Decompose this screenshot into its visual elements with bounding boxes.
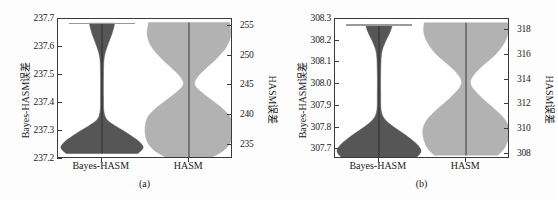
b-right-tickmark-1 (504, 128, 509, 129)
panel-a-left-axis-title: Bayes-HASM误差 (17, 40, 32, 160)
b-right-tickmark-4 (504, 54, 509, 55)
a-left-tick-2: 237.4 (34, 97, 54, 107)
whisker-top (69, 23, 135, 24)
b-left-tickmark-6 (334, 18, 339, 19)
panel-a-axes (57, 18, 232, 158)
b-left-tick-1: 307.8 (311, 122, 331, 132)
b-right-tick-5: 318 (517, 24, 531, 34)
b-left-tick-2: 307.9 (311, 100, 331, 110)
a-left-tick-4: 237.6 (34, 41, 54, 51)
whisker-top (346, 24, 412, 25)
panel-b-xtick-1 (465, 158, 466, 162)
b-right-tick-2: 312 (517, 98, 531, 108)
a-right-tickmark-4 (227, 25, 232, 26)
panel-b-caption: (b) (334, 178, 509, 189)
panel-a: Bayes-HASM误差 HASM误差 237.2237.3237.4237.5… (0, 0, 277, 200)
panel-a-caption: (a) (57, 178, 232, 189)
b-right-tick-1: 310 (517, 123, 531, 133)
b-right-tickmark-5 (504, 29, 509, 30)
panel-b: Bayes-HASM误差 HASM误差 307.7307.8307.9308.0… (277, 0, 554, 200)
a-right-tick-3: 250 (240, 50, 254, 60)
a-left-tickmark-4 (57, 46, 62, 47)
a-left-tick-1: 237.3 (34, 125, 54, 135)
b-right-tick-3: 314 (517, 74, 531, 84)
b-left-tickmark-4 (334, 61, 339, 62)
a-right-tickmark-0 (227, 144, 232, 145)
a-left-tick-5: 237.7 (34, 13, 54, 23)
a-right-tickmark-2 (227, 84, 232, 85)
violin-hasm-b (335, 19, 509, 157)
b-left-tickmark-1 (334, 127, 339, 128)
panel-a-xtick-0 (101, 158, 102, 162)
b-left-tickmark-0 (334, 148, 339, 149)
b-left-tick-3: 308.0 (311, 78, 331, 88)
b-left-tick-5: 308.2 (311, 35, 331, 45)
panel-b-axes (334, 18, 509, 158)
a-left-tick-3: 237.5 (34, 69, 54, 79)
panel-b-x-tick-labels: Bayes-HASM HASM (334, 160, 509, 171)
b-left-tickmark-2 (334, 105, 339, 106)
b-right-tickmark-0 (504, 153, 509, 154)
b-right-tickmark-3 (504, 79, 509, 80)
panel-a-xtick-1 (188, 158, 189, 162)
whisker-bottom (161, 157, 217, 158)
panel-a-x-tick-labels: Bayes-HASM HASM (57, 160, 232, 171)
a-left-tickmark-3 (57, 74, 62, 75)
a-right-tick-2: 245 (240, 79, 254, 89)
a-right-tickmark-3 (227, 55, 232, 56)
b-left-tickmark-3 (334, 83, 339, 84)
b-left-tick-4: 308.1 (311, 56, 331, 66)
violin-hasm-a (58, 19, 232, 157)
b-left-tick-6: 308.3 (311, 13, 331, 23)
b-left-tick-0: 307.7 (311, 143, 331, 153)
a-left-tick-0: 237.2 (34, 153, 54, 163)
b-right-tickmark-2 (504, 103, 509, 104)
a-left-tickmark-5 (57, 18, 62, 19)
a-right-tickmark-1 (227, 114, 232, 115)
b-right-tick-4: 316 (517, 49, 531, 59)
panel-b-right-axis-title: HASM误差 (543, 40, 558, 160)
a-left-tickmark-1 (57, 130, 62, 131)
a-right-tick-0: 235 (240, 139, 254, 149)
a-right-tick-4: 255 (240, 20, 254, 30)
a-right-tick-1: 240 (240, 109, 254, 119)
b-right-tick-0: 308 (517, 148, 531, 158)
a-left-tickmark-2 (57, 102, 62, 103)
panel-b-xtick-0 (378, 158, 379, 162)
panel-b-left-axis-title: Bayes-HASM误差 (294, 40, 309, 160)
b-left-tickmark-5 (334, 40, 339, 41)
a-left-tickmark-0 (57, 158, 62, 159)
